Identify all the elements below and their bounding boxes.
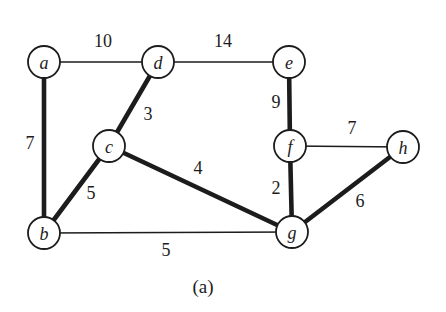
graph-svg: abcdefgh 1014735459726 (a)	[0, 0, 446, 312]
node-label-a: a	[40, 53, 49, 73]
edge-weight-d-e: 14	[214, 31, 232, 51]
edge-b-g	[44, 232, 292, 233]
edge-weight-a-b: 7	[26, 133, 35, 153]
node-label-h: h	[399, 138, 408, 158]
figure-container: abcdefgh 1014735459726 (a)	[0, 0, 446, 312]
figure-caption: (a)	[192, 276, 213, 298]
edge-weight-e-f: 9	[272, 92, 281, 112]
node-label-d: d	[154, 53, 164, 73]
nodes-layer: abcdefgh	[28, 46, 419, 249]
node-label-c: c	[105, 137, 113, 157]
edge-weight-d-c: 3	[144, 104, 153, 124]
edge-weight-g-h: 6	[356, 191, 365, 211]
edge-weight-f-h: 7	[348, 118, 357, 138]
edge-weight-c-g: 4	[194, 158, 203, 178]
edge-weight-f-g: 2	[272, 178, 281, 198]
node-label-b: b	[40, 224, 49, 244]
edge-weight-b-c: 5	[87, 183, 96, 203]
node-label-g: g	[288, 223, 297, 243]
node-label-e: e	[285, 53, 293, 73]
edge-weight-a-d: 10	[94, 31, 112, 51]
edge-g-h	[292, 147, 403, 232]
edge-f-h	[290, 146, 403, 147]
edge-weight-b-g: 5	[162, 240, 171, 260]
